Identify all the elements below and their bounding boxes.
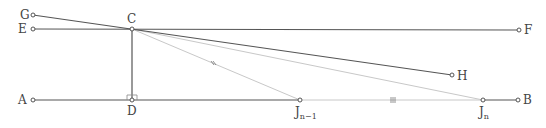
label-jn1: Jn−1	[293, 105, 317, 121]
point-a	[31, 98, 35, 102]
segment-e-f	[33, 29, 519, 30]
label-jn-subscript: n	[484, 112, 489, 121]
label-c: C	[127, 12, 136, 26]
segment-c-jn	[132, 29, 483, 100]
label-jn1-subscript: n−1	[300, 112, 317, 121]
point-c	[130, 27, 134, 31]
point-jn1	[298, 98, 302, 102]
label-e: E	[18, 22, 27, 36]
point-h	[450, 73, 454, 77]
label-a: A	[17, 93, 27, 107]
label-b: B	[523, 93, 532, 107]
label-h: H	[457, 69, 467, 83]
point-g	[31, 13, 35, 17]
label-f: F	[524, 23, 532, 37]
point-f	[517, 28, 521, 32]
label-d: D	[127, 104, 137, 118]
point-b	[516, 98, 520, 102]
geometry-diagram: G E C F H A D Jn−1 Jn B	[0, 0, 546, 128]
label-g: G	[20, 8, 30, 22]
point-jn	[481, 98, 485, 102]
point-d	[130, 98, 134, 102]
point-e	[31, 27, 35, 31]
segment-g-h	[33, 15, 452, 75]
label-jn: Jn	[477, 105, 489, 121]
